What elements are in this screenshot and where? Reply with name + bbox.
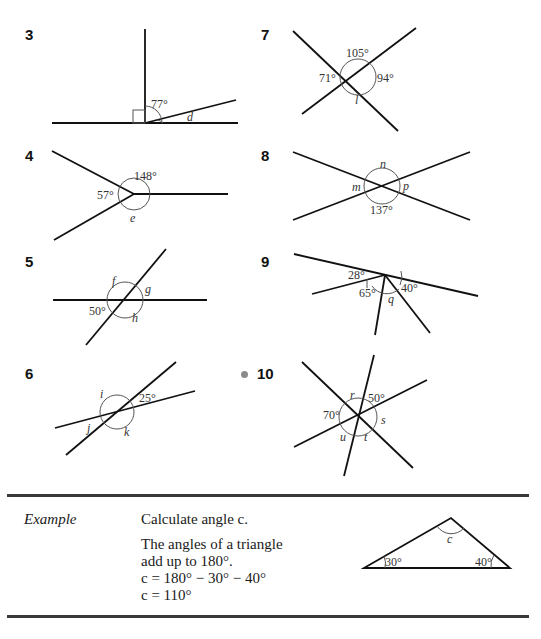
q6-angle-j: j — [85, 421, 91, 435]
q5-angle-h: h — [132, 311, 138, 325]
example-line-4: c = 110° — [141, 587, 283, 604]
q7-angle-105: 105° — [346, 46, 369, 60]
q4-angle-148: 148° — [134, 169, 157, 183]
q8-angle-p: p — [402, 179, 409, 193]
q3-angle-77: 77° — [151, 97, 168, 111]
q4-angle-e: e — [130, 211, 136, 225]
q6-angle-i: i — [100, 387, 103, 401]
q5-angle-f: f — [112, 274, 117, 288]
q10-angle-t: t — [364, 430, 368, 444]
example-line-2: add up to 180°. — [141, 553, 283, 570]
q6-angle-k: k — [124, 425, 130, 439]
q8-angle-m: m — [352, 180, 361, 194]
q7-angle-94: 94° — [377, 71, 394, 85]
triangle-angle-40: 40° — [475, 555, 492, 569]
example-triangle: 30° 40° c — [364, 518, 510, 569]
q10-angle-s: s — [381, 413, 386, 427]
example-top-rule — [7, 494, 529, 497]
q10-angle-u: u — [340, 430, 346, 444]
q6-angle-25: 25° — [139, 391, 156, 405]
q8-angle-137: 137° — [370, 203, 393, 217]
q9-angle-q: q — [388, 292, 394, 306]
q3-angle-d: d — [187, 110, 194, 124]
q7-angle-71: 71° — [319, 71, 336, 85]
q10-angle-70: 70° — [323, 408, 340, 422]
q9-angle-28: 28° — [348, 268, 365, 282]
q4-angle-57: 57° — [97, 188, 114, 202]
example-label: Example — [24, 511, 76, 528]
example-bottom-rule — [7, 615, 529, 618]
q5-angle-50: 50° — [89, 304, 106, 318]
q10-angle-50: 50° — [368, 391, 385, 405]
triangle-angle-30: 30° — [385, 555, 402, 569]
q9-angle-40: 40° — [401, 281, 418, 295]
triangle-angle-c: c — [447, 532, 453, 546]
q5-angle-g: g — [145, 282, 151, 296]
q10-angle-r: r — [350, 388, 355, 402]
example-prompt: Calculate angle c. — [141, 511, 283, 528]
q8-angle-n: n — [380, 157, 386, 171]
example-line-1: The angles of a triangle — [141, 536, 283, 553]
q9-angle-65: 65° — [359, 286, 376, 300]
example-line-3: c = 180° − 30° − 40° — [141, 570, 283, 587]
example-body: Calculate angle c. The angles of a trian… — [141, 511, 283, 604]
